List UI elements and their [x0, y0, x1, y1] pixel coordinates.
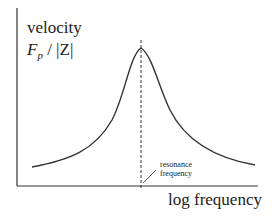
resonance-curve [32, 48, 255, 167]
formula-F: F [27, 40, 37, 59]
y-axis-label-formula: Fp / |Z| [27, 40, 73, 61]
annotation-line2: frequency [160, 169, 192, 178]
annotation-line1: resonance [160, 160, 192, 169]
resonance-frequency-annotation: resonance frequency [160, 160, 192, 178]
y-axis-label-velocity: velocity [27, 18, 82, 38]
x-axis-label: log frequency [168, 190, 262, 210]
formula-rest: / |Z| [43, 40, 73, 59]
annotation-pointer [143, 170, 156, 183]
